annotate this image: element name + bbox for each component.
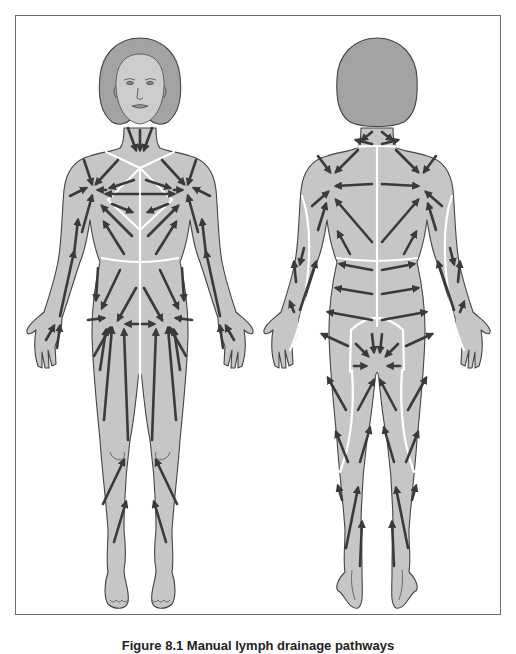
front-figure — [27, 38, 253, 608]
front-face — [116, 54, 164, 124]
back-hair — [337, 38, 417, 127]
back-figure — [264, 38, 490, 608]
figure-caption: Figure 8.1 Manual lymph drainage pathway… — [0, 638, 516, 654]
